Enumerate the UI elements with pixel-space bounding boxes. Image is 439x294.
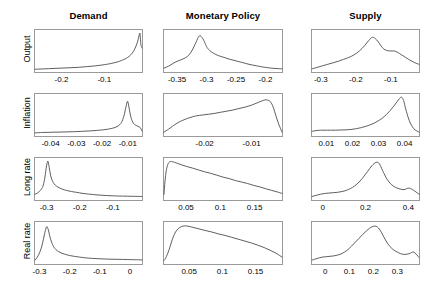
x-tick-label: -0.3 xyxy=(33,267,47,276)
column-title-demand: Demand xyxy=(34,10,143,21)
x-tick-label: 0.04 xyxy=(397,139,413,148)
x-tick-label: 0.4 xyxy=(403,203,414,212)
x-tick-label: 0 xyxy=(128,267,132,276)
x-tick-label: 0.01 xyxy=(319,139,335,148)
x-tick-label: -0.04 xyxy=(41,139,59,148)
x-axis-ticks: -0.2-0.1 xyxy=(34,75,143,87)
panel-real-rate-supply: 00.10.20.3 xyxy=(311,221,420,265)
x-axis-ticks: -0.04-0.03-0.02-0.01 xyxy=(34,139,143,151)
x-tick-label: -0.25 xyxy=(227,75,245,84)
x-tick-label: -0.3 xyxy=(40,203,54,212)
x-tick-label: 0.1 xyxy=(217,267,228,276)
x-tick-label: 0.03 xyxy=(371,139,387,148)
x-axis-ticks: -0.3-0.2-0.1 xyxy=(34,203,143,215)
x-axis-ticks: 00.10.20.3 xyxy=(311,267,420,279)
density-curve xyxy=(34,93,143,137)
x-axis-ticks: 0.010.020.030.04 xyxy=(311,139,420,151)
x-tick-label: -0.2 xyxy=(55,75,69,84)
x-tick-label: 0.02 xyxy=(345,139,361,148)
row-label-real-rate: Real rate xyxy=(22,211,32,271)
column-title-supply: Supply xyxy=(311,10,420,21)
x-axis-ticks: 00.20.4 xyxy=(311,203,420,215)
x-tick-label: 0.15 xyxy=(247,203,263,212)
x-axis-ticks: 0.050.10.15 xyxy=(163,203,283,215)
x-axis-ticks: -0.3-0.2-0.1 xyxy=(311,75,420,87)
x-tick-label: -0.01 xyxy=(242,139,260,148)
density-curve xyxy=(163,221,283,265)
panel-inflation-demand: -0.04-0.03-0.02-0.01 xyxy=(34,93,143,137)
x-tick-label: -0.02 xyxy=(196,139,214,148)
column-title-monetary-policy: Monetary Policy xyxy=(163,10,283,21)
x-axis-ticks: -0.3-0.2-0.10 xyxy=(34,267,143,279)
density-panel-figure: Demand Monetary Policy Supply Output Inf… xyxy=(0,0,439,294)
row-label-output: Output xyxy=(22,19,32,79)
panel-output-monetary-policy: -0.35-0.3-0.25-0.2 xyxy=(163,29,283,73)
density-curve xyxy=(163,93,283,137)
row-label-long-rate: Long rate xyxy=(22,147,32,207)
x-tick-label: 0.2 xyxy=(368,267,379,276)
row-label-inflation: Inflation xyxy=(22,83,32,143)
panel-long-rate-supply: 00.20.4 xyxy=(311,157,420,201)
x-tick-label: -0.2 xyxy=(349,75,363,84)
x-tick-label: 0.1 xyxy=(215,203,226,212)
panel-inflation-supply: 0.010.020.030.04 xyxy=(311,93,420,137)
x-tick-label: -0.1 xyxy=(93,267,107,276)
x-tick-label: -0.2 xyxy=(259,75,273,84)
density-curve xyxy=(34,221,143,265)
x-tick-label: -0.1 xyxy=(97,75,111,84)
x-tick-label: -0.01 xyxy=(119,139,137,148)
x-tick-label: 0.05 xyxy=(181,267,197,276)
panel-inflation-monetary-policy: -0.02-0.01 xyxy=(163,93,283,137)
density-curve xyxy=(311,221,420,265)
x-tick-label: -0.2 xyxy=(73,203,87,212)
density-curve xyxy=(163,157,283,201)
x-tick-label: 0 xyxy=(320,203,324,212)
density-curve xyxy=(34,29,143,73)
x-axis-ticks: -0.35-0.3-0.25-0.2 xyxy=(163,75,283,87)
x-tick-label: -0.03 xyxy=(67,139,85,148)
x-tick-label: 0.2 xyxy=(360,203,371,212)
x-axis-ticks: -0.02-0.01 xyxy=(163,139,283,151)
x-tick-label: -0.1 xyxy=(384,75,398,84)
panel-real-rate-monetary-policy: 0.050.10.15 xyxy=(163,221,283,265)
density-curve xyxy=(311,29,420,73)
density-curve xyxy=(311,157,420,201)
x-tick-label: -0.3 xyxy=(200,75,214,84)
panel-output-demand: -0.2-0.1 xyxy=(34,29,143,73)
x-tick-label: 0 xyxy=(323,267,327,276)
x-axis-ticks: 0.050.10.15 xyxy=(163,267,283,279)
density-curve xyxy=(163,29,283,73)
x-tick-label: 0.1 xyxy=(344,267,355,276)
x-tick-label: -0.3 xyxy=(314,75,328,84)
panel-long-rate-demand: -0.3-0.2-0.1 xyxy=(34,157,143,201)
x-tick-label: 0.15 xyxy=(248,267,264,276)
x-tick-label: 0.3 xyxy=(392,267,403,276)
panel-real-rate-demand: -0.3-0.2-0.10 xyxy=(34,221,143,265)
density-curve xyxy=(34,157,143,201)
density-curve xyxy=(311,93,420,137)
x-tick-label: -0.02 xyxy=(93,139,111,148)
x-tick-label: 0.05 xyxy=(178,203,194,212)
panel-output-supply: -0.3-0.2-0.1 xyxy=(311,29,420,73)
x-tick-label: -0.1 xyxy=(106,203,120,212)
panel-long-rate-monetary-policy: 0.050.10.15 xyxy=(163,157,283,201)
x-tick-label: -0.35 xyxy=(168,75,186,84)
x-tick-label: -0.2 xyxy=(63,267,77,276)
